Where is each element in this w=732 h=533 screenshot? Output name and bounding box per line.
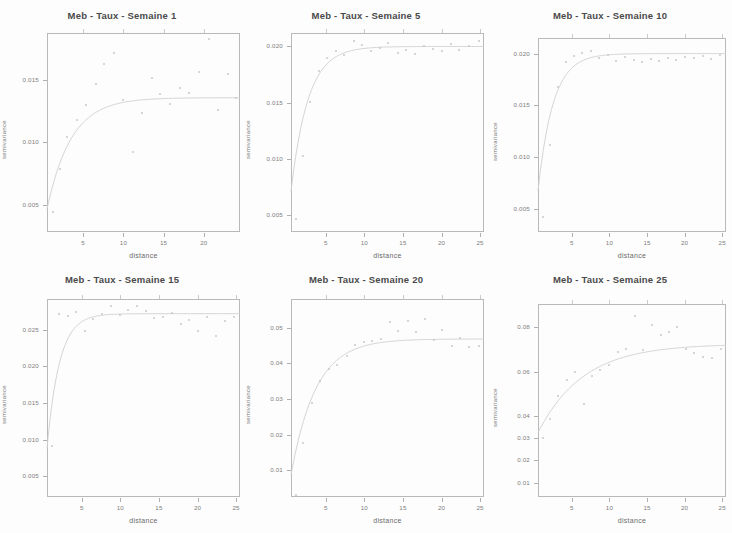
- y-axis-label: semivariance: [245, 385, 251, 424]
- y-tick-mark: [287, 159, 291, 160]
- y-tick-label: 0.015: [249, 99, 283, 106]
- x-tick-mark: [403, 233, 404, 237]
- x-tick-label: 15: [391, 504, 415, 511]
- x-tick-mark-top: [442, 295, 443, 299]
- x-axis-label: distance: [47, 517, 240, 524]
- y-tick-mark: [287, 470, 291, 471]
- data-point: [151, 77, 153, 79]
- y-tick-mark: [43, 330, 47, 331]
- x-tick-label: 20: [430, 504, 454, 511]
- y-axis-label: semivariance: [245, 120, 251, 159]
- y-tick-label: 0.020: [5, 362, 39, 369]
- data-point: [573, 55, 575, 57]
- plot-area: [47, 33, 240, 232]
- data-point: [405, 49, 407, 51]
- data-point: [710, 58, 712, 60]
- y-tick-mark: [534, 460, 538, 461]
- data-point: [478, 40, 480, 42]
- x-tick-label: 10: [597, 239, 621, 246]
- x-tick-mark: [120, 498, 121, 502]
- x-tick-label: 20: [430, 239, 454, 246]
- y-tick-label: 0.01: [496, 479, 530, 486]
- data-point: [583, 403, 585, 405]
- data-point: [84, 330, 86, 332]
- data-point: [658, 60, 660, 62]
- x-tick-label: 10: [111, 239, 135, 246]
- data-point: [101, 313, 103, 315]
- data-point: [617, 351, 619, 353]
- y-tick-label: 0.015: [496, 101, 530, 108]
- y-tick-mark: [43, 366, 47, 367]
- data-point: [180, 323, 182, 325]
- x-tick-mark: [647, 498, 648, 502]
- data-point: [302, 155, 304, 157]
- data-point: [719, 54, 721, 56]
- data-point: [379, 47, 381, 49]
- chart-panel-4: Meb - Taux - Semaine 150.0050.0100.0150.…: [0, 266, 244, 533]
- x-tick-mark: [609, 498, 610, 502]
- data-point: [685, 348, 687, 350]
- y-axis-label: semivariance: [492, 388, 498, 427]
- x-tick-mark: [326, 233, 327, 237]
- data-point: [542, 437, 544, 439]
- x-tick-mark-top: [82, 295, 83, 299]
- y-tick-label: 0.06: [496, 368, 530, 375]
- x-tick-label: 25: [710, 504, 732, 511]
- x-axis-label: distance: [538, 252, 726, 259]
- data-point: [346, 355, 348, 357]
- y-tick-label: 0.010: [5, 436, 39, 443]
- x-tick-label: 20: [673, 239, 697, 246]
- x-tick-mark: [326, 498, 327, 502]
- y-axis-label: semivariance: [1, 385, 7, 424]
- x-tick-label: 15: [147, 504, 171, 511]
- data-point: [113, 52, 115, 54]
- x-tick-label: 15: [391, 239, 415, 246]
- data-point: [557, 86, 559, 88]
- x-tick-mark: [647, 233, 648, 237]
- x-tick-label: 15: [635, 504, 659, 511]
- y-tick-mark: [287, 103, 291, 104]
- y-tick-label: 0.05: [249, 324, 283, 331]
- x-tick-label: 5: [560, 239, 584, 246]
- y-tick-mark: [43, 403, 47, 404]
- data-point: [59, 168, 61, 170]
- x-tick-mark-top: [609, 34, 610, 38]
- panel-title: Meb - Taux - Semaine 5: [244, 10, 488, 21]
- y-tick-mark: [287, 215, 291, 216]
- data-point: [397, 52, 399, 54]
- x-tick-mark-top: [572, 300, 573, 304]
- x-tick-mark-top: [159, 295, 160, 299]
- data-point: [549, 144, 551, 146]
- x-tick-label: 10: [597, 504, 621, 511]
- x-tick-mark: [159, 498, 160, 502]
- y-tick-mark: [534, 54, 538, 55]
- x-tick-mark: [685, 498, 686, 502]
- y-tick-mark: [43, 476, 47, 477]
- x-tick-label: 20: [192, 239, 216, 246]
- plot-area: [291, 299, 484, 497]
- data-point: [206, 316, 208, 318]
- y-tick-mark: [287, 46, 291, 47]
- plot-area: [291, 33, 484, 232]
- x-axis-label: distance: [47, 252, 240, 259]
- x-tick-mark-top: [120, 295, 121, 299]
- x-tick-mark-top: [685, 34, 686, 38]
- data-point: [215, 335, 217, 337]
- x-tick-label: 5: [314, 504, 338, 511]
- x-tick-mark-top: [722, 34, 723, 38]
- data-point: [702, 55, 704, 57]
- x-tick-label: 10: [352, 504, 376, 511]
- x-tick-label: 5: [71, 239, 95, 246]
- y-tick-label: 0.02: [249, 431, 283, 438]
- y-tick-mark: [534, 372, 538, 373]
- x-tick-mark: [572, 498, 573, 502]
- chart-panel-5: Meb - Taux - Semaine 200.010.020.030.040…: [244, 266, 488, 533]
- x-tick-mark: [722, 498, 723, 502]
- data-point: [227, 73, 229, 75]
- y-tick-label: 0.005: [5, 472, 39, 479]
- data-point: [424, 318, 426, 320]
- x-axis-label: distance: [291, 517, 484, 524]
- data-point: [335, 50, 337, 52]
- x-tick-mark: [123, 233, 124, 237]
- y-tick-mark: [534, 438, 538, 439]
